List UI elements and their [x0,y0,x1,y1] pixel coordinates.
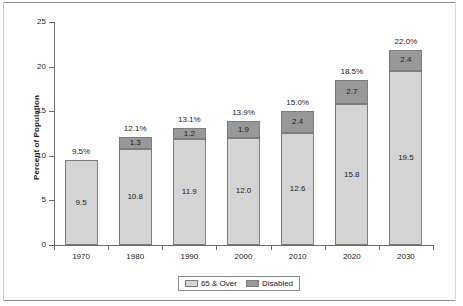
x-axis-tick [108,245,109,250]
y-axis-tick-label-text: 5 [16,196,46,204]
bar-stack[interactable]: 15.82.7 [335,80,368,245]
stacked-bar-chart: Percent of Population 0510152025 1970198… [0,0,463,306]
y-axis-tick-label-text: 10 [16,152,46,160]
bar-segment-value-label: 19.5 [398,154,414,162]
legend-label: 65 & Over [201,280,237,288]
bar-segment-65-and-over[interactable]: 12.0 [227,138,260,245]
bar-segment-value-label: 12.6 [290,185,306,193]
bar-segment-disabled[interactable]: 1.2 [173,128,206,139]
bar-segment-value-label: 2.4 [292,118,303,126]
bar-stack[interactable]: 9.5 [65,160,98,245]
bar-total-label: 13.1% [159,116,219,124]
legend-entry[interactable]: 65 & Over [185,280,237,288]
x-axis-tick-label: 1990 [162,252,216,261]
x-axis-tick-label: 2000 [217,252,271,261]
y-axis-tick-label-text: 20 [16,63,46,71]
x-axis-line [54,245,433,246]
bar-stack[interactable]: 19.52.4 [389,50,422,245]
x-axis-tick [379,245,380,250]
legend-label: Disabled [262,280,293,288]
x-axis-tick-label: 2010 [271,252,325,261]
x-axis-tick [54,245,55,250]
x-axis-tick-label: 1980 [108,252,162,261]
bar-segment-disabled[interactable]: 2.4 [281,111,314,132]
chart-legend: 65 & OverDisabled [178,276,300,291]
bar-segment-value-label: 1.2 [184,130,195,138]
y-axis-tick-label-text: 0 [16,241,46,249]
y-axis-tick-label: 10 [14,152,46,160]
y-axis-tick-label: 20 [14,63,46,71]
bar-segment-disabled[interactable]: 2.7 [335,80,368,104]
bar-segment-65-and-over[interactable]: 9.5 [65,160,98,245]
bar-total-label: 22.0% [376,38,436,46]
bar-stack[interactable]: 10.81.3 [119,137,152,245]
bar-segment-value-label: 10.8 [127,193,143,201]
y-axis-tick-label: 25 [14,18,46,26]
bar-segment-value-label: 1.9 [238,126,249,134]
legend-swatch-icon [246,280,259,287]
bar-segment-disabled[interactable]: 1.3 [119,137,152,149]
bar-segment-value-label: 2.4 [400,56,411,64]
bar-segment-disabled[interactable]: 2.4 [389,50,422,71]
y-axis-tick-label: 0 [14,241,46,249]
y-axis-title: Percent of Population [32,58,41,218]
bar-stack[interactable]: 11.91.2 [173,128,206,245]
bar-segment-value-label: 2.7 [346,88,357,96]
x-axis-tick [325,245,326,250]
bar-stack[interactable]: 12.62.4 [281,111,314,245]
bar-total-label: 13.9% [214,109,274,117]
y-axis-tick-label-text: 15 [16,107,46,115]
bar-segment-value-label: 9.5 [76,199,87,207]
x-axis-tick-label: 1970 [54,252,108,261]
x-axis-tick [216,245,217,250]
bar-segment-65-and-over[interactable]: 15.8 [335,104,368,245]
legend-swatch-icon [185,280,198,287]
y-axis-tick-label: 5 [14,196,46,204]
plot-area: 9.510.81.311.91.212.01.912.62.415.82.719… [54,22,433,245]
bar-stack[interactable]: 12.01.9 [227,121,260,245]
x-axis-tick-label: 2030 [379,252,433,261]
bar-segment-value-label: 1.3 [130,139,141,147]
x-axis-tick [433,245,434,250]
x-axis-tick-label: 2020 [325,252,379,261]
bar-segment-65-and-over[interactable]: 11.9 [173,139,206,245]
bar-total-label: 9.5% [51,148,111,156]
x-axis-tick [162,245,163,250]
bar-segment-65-and-over[interactable]: 19.5 [389,71,422,245]
bar-segment-65-and-over[interactable]: 10.8 [119,149,152,245]
bar-total-label: 18.5% [322,68,382,76]
bar-segment-value-label: 15.8 [344,171,360,179]
x-axis-tick [271,245,272,250]
y-axis-tick-label-text: 25 [16,18,46,26]
bar-segment-disabled[interactable]: 1.9 [227,121,260,138]
bar-segment-65-and-over[interactable]: 12.6 [281,133,314,245]
bar-total-label: 15.0% [268,99,328,107]
bar-total-label: 12.1% [105,125,165,133]
bar-segment-value-label: 12.0 [236,187,252,195]
legend-entry[interactable]: Disabled [246,280,293,288]
bar-segment-value-label: 11.9 [182,188,197,196]
y-axis-tick-label: 15 [14,107,46,115]
